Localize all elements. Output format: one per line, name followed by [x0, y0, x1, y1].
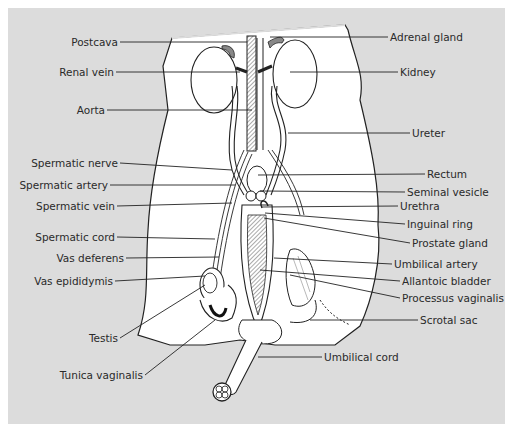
- label-aorta: Aorta: [40, 104, 105, 116]
- label-adrenal-gland: Adrenal gland: [390, 31, 463, 43]
- label-testis: Testis: [70, 332, 118, 344]
- label-spermatic-nerve: Spermatic nerve: [10, 157, 118, 169]
- label-prostate-gland: Prostate gland: [412, 237, 488, 249]
- label-scrotal-sac: Scrotal sac: [420, 314, 477, 326]
- label-allantoic-bladder: Allantoic bladder: [402, 275, 491, 287]
- label-seminal-vesicle: Seminal vesicle: [407, 186, 489, 198]
- label-urethra: Urethra: [400, 200, 440, 212]
- label-kidney: Kidney: [400, 66, 436, 78]
- label-spermatic-vein: Spermatic vein: [10, 200, 115, 212]
- label-tunica-vaginalis: Tunica vaginalis: [30, 369, 143, 381]
- label-renal-vein: Renal vein: [30, 66, 114, 78]
- label-umbilical-cord: Umbilical cord: [324, 351, 399, 363]
- label-vas-deferens: Vas deferens: [20, 252, 124, 264]
- label-postcava: Postcava: [40, 36, 118, 48]
- label-spermatic-artery: Spermatic artery: [0, 179, 108, 191]
- label-umbilical-artery: Umbilical artery: [394, 258, 478, 270]
- label-rectum: Rectum: [427, 168, 467, 180]
- aorta: [247, 36, 256, 151]
- label-processus-vaginalis: Processus vaginalis: [402, 292, 504, 304]
- label-ureter: Ureter: [412, 127, 445, 139]
- label-vas-epididymis: Vas epididymis: [10, 275, 113, 287]
- anatomy-drawing: [0, 0, 510, 432]
- label-inguinal-ring: Inguinal ring: [407, 218, 473, 230]
- label-spermatic-cord: Spermatic cord: [10, 231, 115, 243]
